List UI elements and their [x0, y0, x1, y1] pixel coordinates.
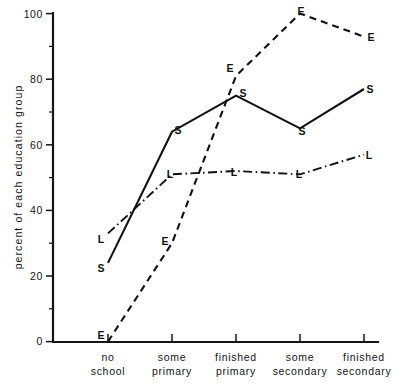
line-chart: 100 80 60 40 20 0 percent of each educat… — [0, 0, 396, 389]
x-tick-label-3-line2: secondary — [273, 365, 328, 377]
x-tick-labels-group: no school some primary finished primary … — [91, 351, 392, 377]
y-tick-label-20: 20 — [30, 270, 43, 282]
x-ticks-group — [108, 334, 364, 342]
point-label-E-1: E — [161, 235, 168, 247]
chart-canvas: 100 80 60 40 20 0 percent of each educat… — [0, 0, 396, 389]
point-labels-group: S S S S S E E E E E L L L L L — [97, 5, 374, 341]
point-label-E-3: E — [297, 5, 304, 17]
point-label-S-1: S — [174, 124, 181, 136]
y-tick-label-60: 60 — [30, 139, 43, 151]
y-tick-label-40: 40 — [30, 204, 43, 216]
point-label-L-3: L — [296, 168, 303, 180]
point-label-L-4: L — [366, 149, 373, 161]
point-label-L-0: L — [98, 233, 105, 245]
x-tick-label-2-line1: finished — [215, 351, 257, 363]
y-axis-title: percent of each education group — [12, 85, 24, 270]
x-tick-label-0-line1: no — [101, 351, 114, 363]
y-tick-label-0: 0 — [37, 335, 43, 347]
point-label-E-0: E — [97, 329, 104, 341]
point-label-S-0: S — [97, 262, 104, 274]
x-tick-label-2-line2: primary — [216, 365, 256, 377]
point-label-S-2: S — [239, 87, 246, 99]
x-tick-label-3-line1: some — [286, 351, 314, 363]
point-label-S-3: S — [298, 125, 305, 137]
point-label-L-2: L — [231, 166, 238, 178]
point-label-E-2: E — [226, 62, 233, 74]
x-tick-label-4-line1: finished — [343, 351, 385, 363]
y-tick-labels-group: 100 80 60 40 20 0 — [24, 8, 43, 348]
x-tick-label-1-line1: some — [158, 351, 186, 363]
point-label-L-1: L — [167, 168, 174, 180]
x-tick-label-0-line2: school — [91, 365, 126, 377]
axes-group — [53, 13, 378, 342]
y-tick-label-100: 100 — [24, 8, 43, 20]
x-tick-label-1-line2: primary — [152, 365, 192, 377]
y-axis-title-group: percent of each education group — [12, 85, 24, 270]
x-tick-label-4-line2: secondary — [337, 365, 392, 377]
point-label-S-4: S — [366, 83, 373, 95]
point-label-E-4: E — [367, 31, 374, 43]
y-tick-label-80: 80 — [30, 73, 43, 85]
